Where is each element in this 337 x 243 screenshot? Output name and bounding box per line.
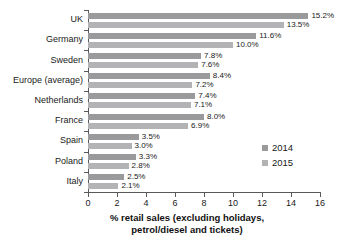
x-axis-tick-label: 2 xyxy=(107,198,127,209)
bar-2015: 7.6% xyxy=(88,62,198,68)
bar-row: 7.1% xyxy=(88,102,320,108)
x-axis-tick xyxy=(117,193,118,197)
bar-value-label: 2.8% xyxy=(132,161,150,171)
bar-row: 15.2% xyxy=(88,13,320,19)
legend-swatch-icon xyxy=(262,145,268,151)
bar-row: 11.6% xyxy=(88,33,320,39)
bar-value-label: 6.9% xyxy=(191,121,209,131)
x-axis-tick xyxy=(262,193,263,197)
category-label: Sweden xyxy=(50,56,83,65)
bar-2014: 11.6% xyxy=(88,33,256,39)
x-axis-title-line-2: petrol/diesel and tickets) xyxy=(52,224,322,236)
x-axis-tick-label: 10 xyxy=(223,198,243,209)
bar-value-label: 2.1% xyxy=(121,181,139,191)
bar-value-label: 8.0% xyxy=(207,112,225,122)
x-axis-tick-label: 4 xyxy=(136,198,156,209)
bar-row: 8.0% xyxy=(88,114,320,120)
legend-label: 2014 xyxy=(272,142,293,154)
bar-group: Italy2.5%2.1% xyxy=(88,172,320,192)
bar-2015: 3.0% xyxy=(88,143,132,149)
bar-value-label: 15.2% xyxy=(311,11,334,21)
bar-2015: 2.1% xyxy=(88,183,118,189)
y-axis-tick xyxy=(84,50,88,51)
bar-2015: 2.8% xyxy=(88,163,129,169)
x-axis-tick xyxy=(291,193,292,197)
bar-value-label: 7.2% xyxy=(195,80,213,90)
x-axis-tick xyxy=(320,193,321,197)
bar-2014: 3.5% xyxy=(88,134,139,140)
x-axis-title-line-1: % retail sales (excluding holidays, xyxy=(52,212,322,224)
legend-label: 2015 xyxy=(272,157,293,169)
bar-row: 2.1% xyxy=(88,183,320,189)
bar-value-label: 10.0% xyxy=(236,40,259,50)
x-axis-tick-label: 0 xyxy=(78,198,98,209)
bar-row: 3.5% xyxy=(88,134,320,140)
category-label: Italy xyxy=(66,177,83,186)
category-label: France xyxy=(55,116,83,125)
y-axis-tick xyxy=(84,131,88,132)
bar-value-label: 8.4% xyxy=(213,71,231,81)
x-axis-tick xyxy=(146,193,147,197)
bar-2014: 7.8% xyxy=(88,53,201,59)
x-axis-tick xyxy=(233,193,234,197)
bar-group: France8.0%6.9% xyxy=(88,111,320,131)
bar-row: 7.6% xyxy=(88,62,320,68)
x-axis-tick xyxy=(204,193,205,197)
category-label: UK xyxy=(70,15,83,24)
x-axis-tick-label: 16 xyxy=(310,198,330,209)
bar-2015: 13.5% xyxy=(88,22,284,28)
x-axis-tick xyxy=(175,193,176,197)
bar-value-label: 7.1% xyxy=(194,100,212,110)
category-label: Spain xyxy=(60,136,83,145)
bar-group: UK15.2%13.5% xyxy=(88,10,320,30)
bar-row: 7.2% xyxy=(88,82,320,88)
y-axis-tick xyxy=(84,172,88,173)
x-axis-tick-label: 12 xyxy=(252,198,272,209)
y-axis-tick xyxy=(84,91,88,92)
bar-2015: 10.0% xyxy=(88,42,233,48)
bar-group: Netherlands7.4%7.1% xyxy=(88,91,320,111)
retail-sales-bar-chart: UK15.2%13.5%Germany11.6%10.0%Sweden7.8%7… xyxy=(0,0,337,243)
x-axis-tick-label: 8 xyxy=(194,198,214,209)
x-axis-tick-label: 6 xyxy=(165,198,185,209)
bar-2014: 8.0% xyxy=(88,114,204,120)
bar-value-label: 7.6% xyxy=(201,60,219,70)
y-axis-tick xyxy=(84,111,88,112)
bar-row: 2.5% xyxy=(88,174,320,180)
bar-row: 8.4% xyxy=(88,73,320,79)
bar-2015: 6.9% xyxy=(88,123,188,129)
bar-value-label: 11.6% xyxy=(259,31,281,41)
legend-swatch-icon xyxy=(262,160,268,166)
bar-value-label: 13.5% xyxy=(287,20,310,30)
category-label: Netherlands xyxy=(34,96,83,105)
bar-2014: 15.2% xyxy=(88,13,308,19)
category-label: Poland xyxy=(55,157,83,166)
bar-2014: 2.5% xyxy=(88,174,124,180)
bar-2014: 8.4% xyxy=(88,73,210,79)
bar-group: Sweden7.8%7.6% xyxy=(88,50,320,70)
bar-row: 6.9% xyxy=(88,123,320,129)
x-axis-title: % retail sales (excluding holidays, petr… xyxy=(52,212,322,236)
bar-2014: 7.4% xyxy=(88,93,195,99)
bar-row: 13.5% xyxy=(88,22,320,28)
bar-group: Europe (average)8.4%7.2% xyxy=(88,71,320,91)
bar-2015: 7.1% xyxy=(88,102,191,108)
bar-row: 7.4% xyxy=(88,93,320,99)
bar-group: Germany11.6%10.0% xyxy=(88,30,320,50)
y-axis-tick xyxy=(84,10,88,11)
x-axis-tick xyxy=(88,193,89,197)
y-axis-tick xyxy=(84,152,88,153)
bar-row: 7.8% xyxy=(88,53,320,59)
x-axis-tick-label: 14 xyxy=(281,198,301,209)
y-axis-tick xyxy=(84,30,88,31)
category-label: Germany xyxy=(46,35,83,44)
y-axis-tick xyxy=(84,71,88,72)
bar-value-label: 3.0% xyxy=(135,141,153,151)
category-label: Europe (average) xyxy=(13,76,83,85)
bar-row: 10.0% xyxy=(88,42,320,48)
bar-2015: 7.2% xyxy=(88,82,192,88)
bar-2014: 3.3% xyxy=(88,154,136,160)
